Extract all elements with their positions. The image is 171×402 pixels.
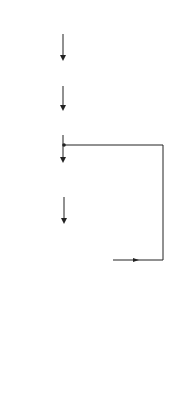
- edge-decision-loopback: [64, 145, 163, 260]
- spacer: [161, 71, 165, 77]
- arrow-right-icon: [133, 258, 139, 262]
- flowchart: [0, 0, 171, 402]
- connectors: [62, 34, 165, 262]
